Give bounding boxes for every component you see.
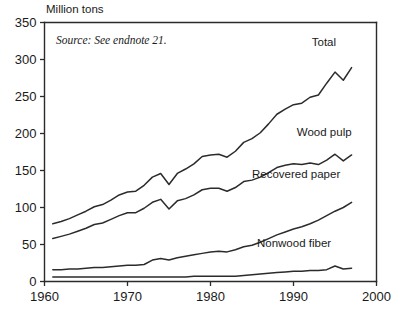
- y-axis-tick-group: 050100150200250300350: [15, 15, 45, 289]
- x-axis-tick-label: 2000: [362, 289, 391, 304]
- y-axis-tick-label: 50: [22, 237, 36, 252]
- y-axis-tick-label: 350: [15, 15, 37, 30]
- series-line-wood-pulp: [53, 154, 352, 238]
- series-label-nonwood-fiber: Nonwood fiber: [257, 237, 331, 249]
- y-axis-tick-label: 100: [15, 200, 37, 215]
- y-axis-tick-label: 150: [15, 163, 37, 178]
- series-label-wood-pulp: Wood pulp: [297, 126, 352, 138]
- x-axis-tick-label: 1970: [113, 289, 142, 304]
- series-label-group: TotalWood pulpRecovered paperNonwood fib…: [252, 36, 352, 249]
- source-note: Source: See endnote 21.: [56, 34, 167, 46]
- x-axis-tick-label: 1990: [279, 289, 308, 304]
- chart-container: Million tons Source: See endnote 21. 050…: [0, 0, 405, 318]
- y-axis-tick-label: 300: [15, 52, 37, 67]
- series-line-total: [53, 68, 352, 224]
- series-label-recovered-paper: Recovered paper: [252, 168, 340, 180]
- y-axis-title: Million tons: [46, 3, 104, 15]
- y-axis-tick-label: 0: [29, 274, 36, 289]
- y-axis-tick-label: 200: [15, 126, 37, 141]
- x-axis-tick-label: 1980: [196, 289, 225, 304]
- x-axis-tick-group: 19601970198019902000: [30, 282, 391, 304]
- series-label-total: Total: [312, 36, 336, 48]
- x-axis-tick-label: 1960: [30, 289, 59, 304]
- paper-production-line-chart: Million tons Source: See endnote 21. 050…: [0, 0, 405, 318]
- y-axis-tick-label: 250: [15, 89, 37, 104]
